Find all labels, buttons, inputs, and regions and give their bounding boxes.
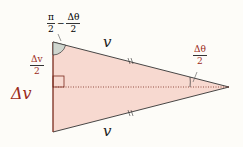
angle-dtheta-num: Δθ — [66, 13, 80, 24]
angle-pi-den: 2 — [48, 24, 54, 34]
delta-v-label: Δv — [11, 86, 32, 102]
apex-angle-label: Δθ 2 — [193, 45, 207, 66]
minus-sign: − — [57, 19, 65, 28]
bottom-side-label: v — [103, 124, 111, 139]
top-angle-label: π 2 − Δθ 2 — [47, 13, 80, 34]
angle-pi-num: π — [47, 13, 55, 24]
angle-dtheta-den: 2 — [71, 24, 77, 34]
half-delta-v-label: Δv 2 — [30, 55, 44, 76]
diagram: π 2 − Δθ 2 v v Δv Δv 2 Δθ 2 — [0, 0, 243, 147]
top-side-label: v — [103, 35, 111, 50]
